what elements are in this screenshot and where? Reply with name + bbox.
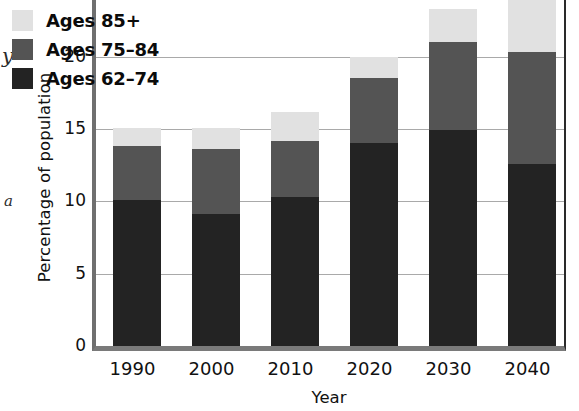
x-axis-tick-labels: 199020002010202020302040 (92, 358, 566, 384)
bar-group (508, 0, 556, 346)
bar-segment (192, 214, 240, 346)
gridline-10 (96, 201, 564, 202)
x-tick-label-2030: 2030 (409, 358, 489, 379)
bar-segment (429, 130, 477, 346)
bar-segment (271, 112, 319, 141)
bar-group (429, 0, 477, 346)
x-axis-title: Year (92, 388, 566, 407)
x-tick-label-2000: 2000 (172, 358, 252, 379)
bar-segment (192, 128, 240, 150)
y-tick-label-10: 10 (46, 192, 86, 209)
bar-segment (508, 0, 556, 52)
legend-item: Ages 85+ (12, 6, 242, 35)
legend-item: Ages 75–84 (12, 35, 242, 64)
gridline-5 (96, 274, 564, 275)
y-tick-label-15: 15 (46, 120, 86, 137)
bar-segment (508, 164, 556, 346)
bar-group (350, 0, 398, 346)
bar-group (271, 0, 319, 346)
legend-swatch-icon (12, 68, 33, 89)
bar-segment (271, 197, 319, 346)
bar-segment (429, 9, 477, 42)
x-tick-label-1990: 1990 (93, 358, 173, 379)
legend-item: Ages 62–74 (12, 64, 242, 93)
legend-swatch-icon (12, 39, 33, 60)
bar-segment (271, 141, 319, 197)
gridline-15 (96, 129, 564, 130)
bar-segment (113, 128, 161, 147)
bar-segment (429, 42, 477, 130)
y-tick-label-5: 5 (46, 265, 86, 282)
chart-legend: Ages 85+Ages 75–84Ages 62–74 (12, 6, 242, 93)
bar-segment (192, 149, 240, 214)
x-tick-label-2010: 2010 (251, 358, 331, 379)
legend-item-label: Ages 62–74 (46, 68, 159, 89)
chart-figure: y a Percentage of population 2520151050 … (0, 0, 579, 411)
x-tick-label-2040: 2040 (488, 358, 568, 379)
bar-segment (113, 146, 161, 200)
x-tick-label-2020: 2020 (330, 358, 410, 379)
legend-item-label: Ages 85+ (46, 10, 141, 31)
bar-segment (113, 200, 161, 346)
bar-segment (508, 52, 556, 163)
y-tick-label-0: 0 (46, 337, 86, 354)
stray-mark-a: a (4, 192, 13, 210)
bar-segment (350, 57, 398, 79)
bar-segment (350, 143, 398, 346)
legend-item-label: Ages 75–84 (46, 39, 159, 60)
legend-swatch-icon (12, 10, 33, 31)
bar-segment (350, 78, 398, 143)
